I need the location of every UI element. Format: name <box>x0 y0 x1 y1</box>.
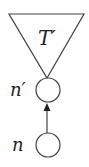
node-n <box>36 133 60 157</box>
arrowhead-icon <box>44 103 51 111</box>
subtree-label: T′ <box>38 26 56 50</box>
node-n-label: n <box>12 134 24 155</box>
node-n-prime <box>36 78 60 102</box>
node-n-prime-label: n′ <box>10 79 26 100</box>
tree-diagram: T′ n′ n <box>0 0 89 167</box>
